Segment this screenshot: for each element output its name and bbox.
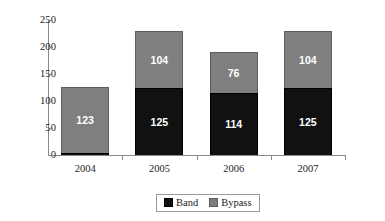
- bar-segment-band[interactable]: 114: [210, 93, 258, 155]
- bar-value-label: 76: [228, 68, 240, 79]
- bar-segment-band[interactable]: 3: [61, 153, 109, 155]
- bar-value-label: 104: [299, 55, 317, 66]
- x-axis-tick-mark: [271, 155, 272, 160]
- bar-segment-band[interactable]: 125: [284, 88, 332, 156]
- x-axis-label-2005: 2005: [124, 163, 194, 174]
- legend-label-bypass: Bypass: [221, 197, 251, 208]
- bar-value-label: 123: [76, 115, 94, 126]
- y-axis-tick-mark: [49, 155, 53, 156]
- x-axis-label-2004: 2004: [50, 163, 120, 174]
- x-axis-label-2006: 2006: [199, 163, 269, 174]
- legend-label-band: Band: [176, 197, 198, 208]
- plot-area: 123310412576114104125: [48, 20, 345, 155]
- bar-column[interactable]: 104125: [284, 31, 332, 155]
- bar-value-label: 125: [151, 117, 169, 128]
- legend-item-band[interactable]: Band: [164, 197, 198, 208]
- bar-segment-bypass[interactable]: 123: [61, 87, 109, 153]
- x-axis-tick-mark: [197, 155, 198, 160]
- bar-value-label: 114: [225, 119, 242, 130]
- stacked-bar-chart: 050100150200250 123310412576114104125 20…: [0, 0, 385, 221]
- x-axis-tick-mark: [122, 155, 123, 160]
- black-square-swatch-icon: [164, 198, 173, 207]
- bar-value-label: 104: [151, 55, 169, 66]
- x-axis-tick-mark: [345, 155, 346, 160]
- bar-column[interactable]: 104125: [135, 31, 183, 155]
- bar-segment-bypass[interactable]: 104: [135, 31, 183, 87]
- chart-legend: Band Bypass: [156, 194, 260, 212]
- bar-segment-band[interactable]: 125: [135, 88, 183, 156]
- legend-item-bypass[interactable]: Bypass: [209, 197, 251, 208]
- bar-column[interactable]: 76114: [210, 52, 258, 155]
- bar-segment-bypass[interactable]: 76: [210, 52, 258, 93]
- x-axis-label-2007: 2007: [273, 163, 343, 174]
- bar-column[interactable]: 1233: [61, 87, 109, 155]
- bar-value-label: 125: [299, 117, 317, 128]
- gray-square-swatch-icon: [209, 198, 218, 207]
- bar-segment-bypass[interactable]: 104: [284, 31, 332, 87]
